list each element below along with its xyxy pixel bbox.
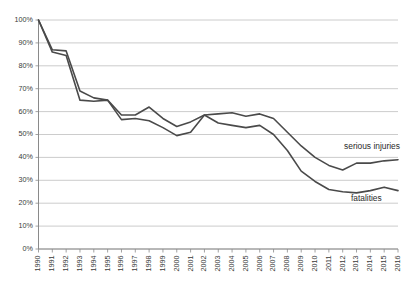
x-tick-label-2003: 2003 — [213, 256, 222, 272]
x-tick-label-2001: 2001 — [186, 256, 195, 272]
x-tick-label-1992: 1992 — [61, 256, 70, 272]
x-tick-label-2010: 2010 — [310, 256, 319, 272]
y-tick-label-100%: 100% — [15, 15, 34, 24]
y-tick-label-10%: 10% — [19, 221, 34, 230]
y-tick-label-90%: 90% — [19, 38, 34, 47]
y-tick-label-30%: 30% — [19, 175, 34, 184]
x-tick-label-2013: 2013 — [351, 256, 360, 272]
x-tick-label-2016: 2016 — [393, 256, 402, 272]
x-tick-label-1995: 1995 — [103, 256, 112, 272]
x-tick-label-2014: 2014 — [365, 256, 374, 272]
x-tick-label-1991: 1991 — [47, 256, 56, 272]
y-tick-label-0%: 0% — [23, 244, 34, 253]
y-tick-label-50%: 50% — [19, 129, 34, 138]
gridlines — [39, 20, 399, 249]
y-tick-label-60%: 60% — [19, 107, 34, 116]
x-tick-label-1998: 1998 — [144, 256, 153, 272]
series-annotations: serious injuriesfatalities — [344, 141, 400, 203]
x-tick-label-1990: 1990 — [33, 256, 42, 272]
x-tick-label-1999: 1999 — [158, 256, 167, 272]
y-tick-label-40%: 40% — [19, 152, 34, 161]
x-tick-label-2008: 2008 — [282, 256, 291, 272]
x-tick-label-2009: 2009 — [296, 256, 305, 272]
x-tick-label-2005: 2005 — [241, 256, 250, 272]
series-line-fatalities — [39, 20, 399, 193]
y-tick-label-80%: 80% — [19, 61, 34, 70]
chart-container: 100%90%80%70%60%50%40%30%20%10%0% 199019… — [0, 0, 418, 282]
x-tick-label-1993: 1993 — [75, 256, 84, 272]
y-axis-tick-labels: 100%90%80%70%60%50%40%30%20%10%0% — [15, 15, 34, 253]
x-axis-tick-labels: 1990199119921993199419951996199719981999… — [33, 256, 402, 272]
data-series-lines — [39, 20, 399, 193]
x-tick-label-2004: 2004 — [227, 256, 236, 272]
x-tick-label-1996: 1996 — [116, 256, 125, 272]
x-tick-label-2015: 2015 — [379, 256, 388, 272]
y-tick-label-70%: 70% — [19, 84, 34, 93]
x-tick-label-1994: 1994 — [89, 256, 98, 272]
x-tick-label-2012: 2012 — [338, 256, 347, 272]
x-tick-label-2011: 2011 — [324, 256, 333, 271]
x-axis-tickmarks — [39, 249, 399, 253]
annotation-fatalities: fatalities — [351, 193, 382, 203]
x-tick-label-2006: 2006 — [255, 256, 264, 272]
x-tick-label-1997: 1997 — [130, 256, 139, 272]
y-tick-label-20%: 20% — [19, 198, 34, 207]
x-tick-label-2007: 2007 — [268, 256, 277, 272]
x-tick-label-2002: 2002 — [199, 256, 208, 272]
line-chart: 100%90%80%70%60%50%40%30%20%10%0% 199019… — [0, 0, 418, 282]
annotation-serious-injuries: serious injuries — [344, 141, 400, 151]
x-tick-label-2000: 2000 — [172, 256, 181, 272]
